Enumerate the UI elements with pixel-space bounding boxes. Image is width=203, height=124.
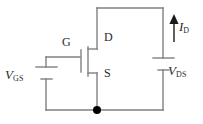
label-id-subscript: D — [183, 26, 189, 35]
label-drain-terminal: D — [104, 31, 113, 43]
mosfet-symbol — [81, 47, 97, 76]
label-vgs: VGS — [5, 66, 24, 82]
gate-source-battery — [36, 67, 57, 79]
label-vgs-symbol: V — [5, 67, 13, 82]
label-vds: VDS — [168, 62, 187, 78]
ground-junction-dot — [93, 106, 101, 114]
drain-current-arrow — [169, 14, 178, 42]
label-vds-subscript: DS — [176, 70, 187, 79]
label-source-terminal: S — [104, 67, 111, 79]
wires-group — [46, 8, 163, 110]
label-id: ID — [179, 18, 189, 34]
current-arrow-head — [169, 14, 178, 24]
label-gate-terminal: G — [62, 36, 71, 48]
label-vgs-subscript: GS — [13, 74, 24, 83]
label-vds-symbol: V — [168, 63, 176, 78]
circuit-diagram: VGS VDS ID G D S — [0, 0, 203, 124]
